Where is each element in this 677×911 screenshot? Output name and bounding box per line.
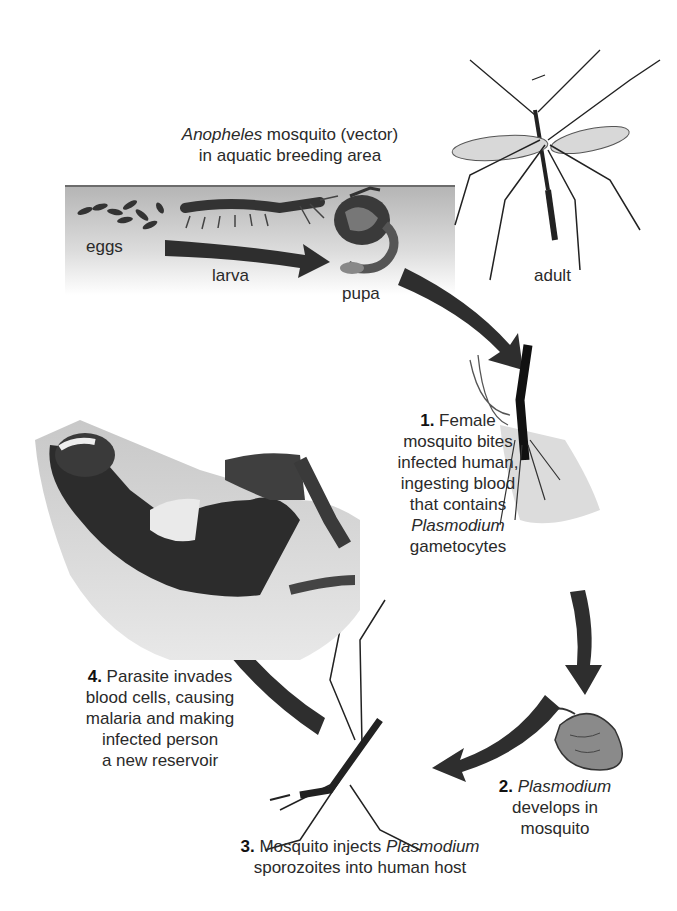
- step-3-label: 3. Mosquito injects Plasmodium sporozoit…: [210, 836, 510, 878]
- infected-human-illustration: [35, 420, 360, 660]
- midgut-icon: [545, 708, 622, 770]
- larva-label: larva: [212, 265, 249, 286]
- step-2-label: 2. Plasmodium develops in mosquito: [490, 776, 620, 839]
- eggs-label: eggs: [86, 236, 123, 257]
- arrow-develop-to-inject: [432, 695, 560, 782]
- title-label: Anopheles mosquito (vector) in aquatic b…: [165, 124, 415, 166]
- arrow-pupa-to-bite: [398, 268, 523, 370]
- pupa-label: pupa: [342, 283, 380, 304]
- arrow-bite-to-develop: [565, 590, 602, 695]
- step-1-label: 1. Female mosquito bites infected human,…: [388, 410, 528, 557]
- step-4-label: 4. Parasite invades blood cells, causing…: [60, 666, 260, 771]
- adult-label: adult: [534, 265, 571, 286]
- adult-mosquito-icon: [451, 50, 660, 280]
